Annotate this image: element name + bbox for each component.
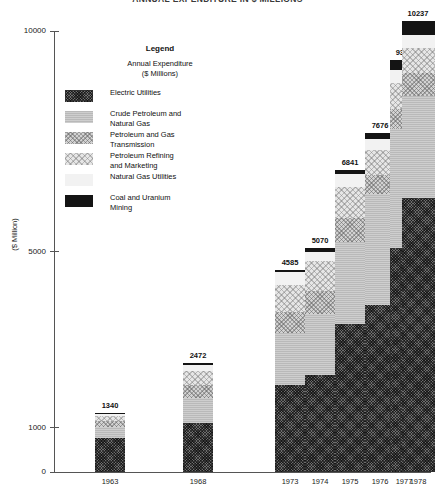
bar-segment-petroleum-and-gas-transmission [183,385,213,398]
bar-segment-crude-petroleum-and-natural-gas [305,314,335,375]
legend-swatch-electric-utilities [65,90,93,102]
legend-item-electric-utilities[interactable]: Electric Utilities [65,88,255,107]
legend-swatch-coal-and-uranium-mining [65,195,93,207]
y-tick-label: 10000 [24,27,46,35]
bar-segment-petroleum-refining-and-marketing [275,285,305,312]
legend-label-natural-gas-utilities: Natural Gas Utilities [110,172,255,182]
bar-1973[interactable] [275,270,305,472]
legend-item-petroleum-refining-and-marketing[interactable]: Petroleum Refining and Marketing [65,151,255,170]
legend-swatch-crude-petroleum-and-natural-gas [65,111,93,123]
y-axis-line [54,31,55,473]
bar-segment-electric-utilities [95,438,125,472]
bar-segment-crude-petroleum-and-natural-gas [335,242,365,324]
bar-segment-coal-and-uranium-mining [183,363,213,365]
bar-segment-electric-utilities [402,198,435,472]
y-tick-label: 5000 [28,248,46,256]
bar-segment-petroleum-refining-and-marketing [402,48,435,73]
bar-segment-coal-and-uranium-mining [335,170,365,174]
bar-segment-electric-utilities [335,324,365,472]
legend-item-petroleum-and-gas-transmission[interactable]: Petroleum and Gas Transmission [65,130,255,149]
legend-item-crude-petroleum-and-natural-gas[interactable]: Crude Petroleum and Natural Gas [65,109,255,128]
legend-label-electric-utilities: Electric Utilities [110,88,255,98]
bar-1968[interactable] [183,363,213,472]
y-tick-mark [50,427,59,428]
bar-segment-coal-and-uranium-mining [95,413,125,414]
legend-item-natural-gas-utilities[interactable]: Natural Gas Utilities [65,172,255,191]
bar-segment-petroleum-refining-and-marketing [183,371,213,386]
bar-segment-electric-utilities [275,385,305,472]
bar-segment-natural-gas-utilities [335,174,365,187]
bar-value-label-1968: 2472 [176,352,220,360]
legend-label-petroleum-and-gas-transmission: Petroleum and Gas Transmission [110,130,255,149]
y-tick-label: 0 [42,468,46,476]
bar-segment-crude-petroleum-and-natural-gas [275,333,305,385]
stacked-bar-chart: ANNUAL EXPENDITURE IN $ MILLIONS ($ Mill… [0,0,435,497]
legend-swatch-petroleum-refining-and-marketing [65,153,93,165]
legend-item-coal-and-uranium-mining[interactable]: Coal and Uranium Mining [65,193,255,212]
legend-label-crude-petroleum-and-natural-gas: Crude Petroleum and Natural Gas [110,109,255,128]
legend: Legend Annual Expenditure ($ Millions) E… [65,44,255,214]
x-tick-label-1963: 1963 [90,477,130,486]
y-axis-title: ($ Million) [10,205,19,265]
bar-segment-natural-gas-utilities [305,252,335,261]
legend-label-coal-and-uranium-mining: Coal and Uranium Mining [110,193,255,212]
bar-1978[interactable] [402,21,435,472]
bar-segment-natural-gas-utilities [402,35,435,49]
bar-segment-crude-petroleum-and-natural-gas [95,427,125,438]
bar-segment-coal-and-uranium-mining [402,21,435,35]
bar-segment-coal-and-uranium-mining [275,270,305,273]
bar-1974[interactable] [305,248,335,472]
bar-segment-petroleum-refining-and-marketing [305,261,335,291]
chart-title: ANNUAL EXPENDITURE IN $ MILLIONS [0,0,435,3]
legend-items: Electric UtilitiesCrude Petroleum and Na… [65,88,255,212]
bar-1975[interactable] [335,170,365,472]
legend-title: Legend [65,44,255,54]
bar-segment-petroleum-and-gas-transmission [335,218,365,243]
y-tick-mark [50,251,59,252]
bar-segment-petroleum-and-gas-transmission [402,73,435,96]
bar-segment-coal-and-uranium-mining [305,248,335,252]
x-tick-label-1968: 1968 [178,477,218,486]
legend-label-petroleum-refining-and-marketing: Petroleum Refining and Marketing [110,151,255,170]
legend-subtitle: Annual Expenditure ($ Millions) [65,59,255,79]
bar-segment-crude-petroleum-and-natural-gas [183,398,213,423]
legend-swatch-natural-gas-utilities [65,174,93,186]
bar-segment-crude-petroleum-and-natural-gas [402,96,435,197]
bar-segment-petroleum-and-gas-transmission [275,312,305,333]
y-tick-mark [50,31,59,32]
bar-1963[interactable] [95,413,125,472]
bar-segment-petroleum-refining-and-marketing [95,416,125,421]
bar-segment-electric-utilities [305,375,335,472]
bar-segment-natural-gas-utilities [275,272,305,284]
bar-segment-petroleum-refining-and-marketing [335,187,365,217]
y-tick-mark [50,472,59,473]
bar-value-label-1963: 1340 [88,402,132,410]
x-tick-label-1978: 1978 [398,477,435,486]
bar-value-label-1978: 10237 [396,10,435,18]
bar-segment-natural-gas-utilities [183,365,213,370]
bar-segment-petroleum-and-gas-transmission [95,421,125,428]
bar-segment-electric-utilities [183,423,213,472]
x-axis-line [54,472,431,473]
bar-segment-petroleum-and-gas-transmission [305,291,335,314]
y-tick-label: 1000 [28,424,46,432]
legend-swatch-petroleum-and-gas-transmission [65,132,93,144]
